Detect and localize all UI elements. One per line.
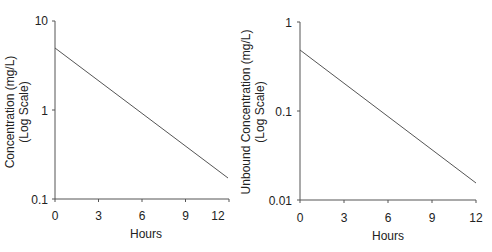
left-chart: Concentration (mg/L) (Log Scale) 10 1 0.…	[3, 14, 229, 241]
right-ylabel-line2: (Log Scale)	[253, 81, 267, 142]
right-ytick: 1	[285, 16, 292, 30]
left-xtick: 0	[52, 209, 59, 223]
right-ytick: 0.1	[275, 105, 292, 119]
left-xtick: 9	[182, 209, 189, 223]
right-xtick: 3	[341, 211, 348, 225]
left-ytick: 10	[35, 14, 49, 28]
right-ylabel-line1: Unbound Concentration (mg/L)	[239, 30, 253, 195]
left-xtick: 3	[95, 209, 102, 223]
left-xlabel: Hours	[130, 227, 162, 241]
right-xlabel: Hours	[372, 229, 404, 243]
left-ytick: 1	[41, 104, 48, 118]
left-xtick: 6	[139, 209, 146, 223]
chart-canvas: Concentration (mg/L) (Log Scale) 10 1 0.…	[0, 0, 492, 252]
right-ytick: 0.01	[269, 194, 293, 208]
right-xtick: 9	[429, 211, 436, 225]
left-ytick: 0.1	[31, 193, 48, 207]
left-ylabel-line2: (Log Scale)	[17, 81, 31, 142]
left-series-line	[55, 48, 228, 178]
right-series-line	[300, 50, 476, 183]
right-chart: Unbound Concentration (mg/L) (Log Scale)…	[239, 16, 483, 243]
left-xtick: 12	[211, 209, 225, 223]
right-xtick: 6	[385, 211, 392, 225]
right-xtick: 0	[297, 211, 304, 225]
left-ylabel-line1: Concentration (mg/L)	[3, 56, 17, 169]
right-xtick: 12	[469, 211, 483, 225]
